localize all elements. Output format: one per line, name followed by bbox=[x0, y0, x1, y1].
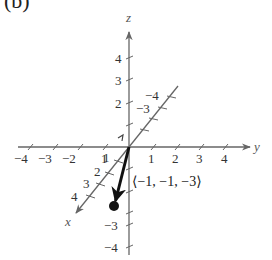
z-tick-neg3: −3 bbox=[104, 218, 118, 233]
x-tick-neg3: −3 bbox=[136, 101, 150, 116]
z-axis-label: z bbox=[125, 10, 131, 25]
x-tick-3: 3 bbox=[83, 176, 90, 191]
panel-label: (b) bbox=[4, 0, 30, 13]
vector: ⟨−1, −1, −3⟩ bbox=[109, 147, 202, 211]
x-tick-2: 2 bbox=[94, 164, 101, 179]
y-tick-3: 3 bbox=[196, 151, 203, 166]
y-axis-label: y bbox=[252, 139, 260, 154]
y-tick-2: 2 bbox=[172, 151, 179, 166]
y-tick-4: 4 bbox=[221, 151, 228, 166]
origin-mark bbox=[118, 135, 123, 141]
y-axis: y −4 −3 −2 1 1 2 3 4 bbox=[14, 139, 260, 166]
z-axis: z 4 3 2 −3 −4 bbox=[104, 10, 133, 255]
x-tick-1: 1 bbox=[103, 150, 110, 165]
y-tick-neg3: −3 bbox=[38, 151, 52, 166]
z-tick-4: 4 bbox=[115, 51, 122, 66]
z-tick-2: 2 bbox=[115, 96, 122, 111]
x-tick-4: 4 bbox=[71, 189, 78, 204]
vector-endpoint bbox=[109, 201, 119, 211]
y-tick-neg2: −2 bbox=[62, 151, 76, 166]
z-tick-neg4: −4 bbox=[104, 240, 118, 255]
3d-vector-diagram: (b) z 4 3 2 −3 −4 y bbox=[0, 0, 272, 260]
x-axis-label: x bbox=[64, 214, 71, 229]
z-tick-3: 3 bbox=[115, 73, 122, 88]
vector-label: ⟨−1, −1, −3⟩ bbox=[132, 174, 202, 189]
y-tick-1: 1 bbox=[148, 151, 155, 166]
x-tick-neg4: −4 bbox=[145, 88, 159, 103]
y-tick-neg4: −4 bbox=[14, 151, 28, 166]
